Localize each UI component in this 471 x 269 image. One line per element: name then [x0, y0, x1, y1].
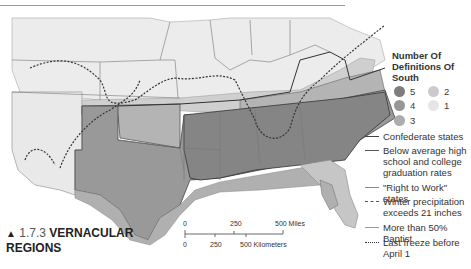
scale-miles-250: 250 [230, 220, 242, 227]
dashed-line-icon [365, 201, 379, 202]
dotted-line-icon [365, 242, 379, 243]
scale-miles-0: 0 [183, 220, 187, 227]
legend-level-3: 3 [394, 115, 415, 126]
figure-title-line1: VERNACULAR [49, 226, 133, 240]
figure-title-line2: REGIONS [6, 241, 61, 255]
figure-number: 1.7.3 [19, 226, 46, 240]
swatch-4-icon [394, 100, 405, 111]
swatch-2-icon [428, 86, 439, 97]
solid-line-icon [365, 187, 379, 188]
legend-title: Number Of Definitions Of South [392, 50, 471, 83]
legend-graduation: Below average high school and college gr… [365, 145, 471, 178]
legend-level-5: 5 [394, 86, 415, 97]
legend-level-2: 2 [428, 86, 449, 97]
swatch-1-icon [428, 100, 439, 111]
swatch-5-icon [394, 86, 405, 97]
scale-km-500: 500 Kilometers [240, 241, 287, 248]
scale-km-250: 250 [210, 241, 222, 248]
legend-confederate: Confederate states [365, 131, 463, 142]
solid-line-icon [365, 227, 379, 228]
legend-level-1: 1 [428, 100, 449, 111]
solid-line-icon [365, 136, 379, 137]
legend-level-4: 4 [394, 100, 415, 111]
legend-last-freeze: Last freeze before April 1 [365, 237, 471, 259]
solid-line-icon [365, 150, 379, 151]
figure-caption: ▲ 1.7.3 VERNACULAR REGIONS [6, 226, 133, 255]
swatch-3-icon [394, 115, 405, 126]
triangle-icon: ▲ [6, 228, 16, 239]
scale-miles-500: 500 Miles [275, 220, 305, 227]
legend-precipitation: Winter precipitation exceeds 21 inches [365, 196, 471, 218]
scale-km-0: 0 [183, 241, 187, 248]
